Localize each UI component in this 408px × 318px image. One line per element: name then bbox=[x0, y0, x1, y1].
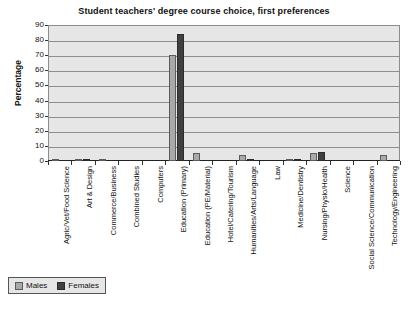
x-tick-label: Humanities/Arts/Language bbox=[250, 166, 258, 254]
chart-title: Student teachers' degree course choice, … bbox=[0, 6, 408, 16]
bar-females bbox=[177, 34, 184, 161]
x-tick-mark bbox=[236, 161, 237, 165]
x-tick-label: Combined Studies bbox=[133, 166, 141, 227]
x-tick-mark bbox=[95, 161, 96, 165]
chart-legend: Males Females bbox=[8, 277, 106, 294]
bar-females bbox=[318, 152, 325, 161]
y-axis-tick-labels: 0102030405060708090 bbox=[22, 25, 44, 161]
bar-chart: Student teachers' degree course choice, … bbox=[0, 0, 408, 318]
y-tick-label: 90 bbox=[22, 21, 44, 29]
x-tick-mark bbox=[330, 161, 331, 165]
bars-layer bbox=[48, 25, 400, 161]
bar-males bbox=[169, 55, 176, 161]
x-tick-label: Commerce/Business bbox=[110, 166, 118, 235]
bar-males bbox=[286, 159, 293, 161]
legend-swatch-males-icon bbox=[15, 282, 23, 290]
x-tick-mark bbox=[142, 161, 143, 165]
y-tick-mark bbox=[45, 116, 48, 117]
x-tick-label: Nursing/Physio/Health bbox=[321, 166, 329, 240]
bar-males bbox=[380, 155, 387, 161]
y-tick-mark bbox=[45, 25, 48, 26]
y-tick-mark bbox=[45, 55, 48, 56]
x-tick-mark bbox=[353, 161, 354, 165]
x-tick-mark bbox=[283, 161, 284, 165]
x-tick-mark bbox=[189, 161, 190, 165]
x-tick-mark bbox=[71, 161, 72, 165]
x-tick-label: Art & Design bbox=[86, 166, 94, 208]
y-tick-label: 10 bbox=[22, 142, 44, 150]
x-tick-label: Agric/Vet/Food Science bbox=[63, 166, 71, 244]
y-tick-mark bbox=[45, 70, 48, 71]
y-tick-mark bbox=[45, 161, 48, 162]
legend-swatch-females-icon bbox=[57, 282, 65, 290]
legend-label-females: Females bbox=[68, 281, 99, 290]
x-tick-mark bbox=[377, 161, 378, 165]
y-tick-mark bbox=[45, 85, 48, 86]
legend-label-males: Males bbox=[26, 281, 47, 290]
x-tick-label: Computers bbox=[157, 166, 165, 203]
x-tick-mark bbox=[259, 161, 260, 165]
x-tick-label: Medicine/Dentistry bbox=[297, 166, 305, 228]
y-tick-label: 80 bbox=[22, 36, 44, 44]
y-tick-mark bbox=[45, 131, 48, 132]
x-tick-mark bbox=[118, 161, 119, 165]
bar-males bbox=[52, 159, 59, 161]
y-tick-label: 50 bbox=[22, 81, 44, 89]
bar-males bbox=[310, 153, 317, 161]
x-tick-mark bbox=[306, 161, 307, 165]
legend-item-males: Males bbox=[15, 281, 47, 290]
x-tick-mark bbox=[400, 161, 401, 165]
x-tick-label: Hotel/Catering/Tourism bbox=[227, 166, 235, 242]
bar-males bbox=[239, 155, 246, 161]
x-tick-mark bbox=[212, 161, 213, 165]
bar-males bbox=[99, 159, 106, 161]
x-tick-label: Science bbox=[344, 166, 352, 193]
bar-males bbox=[75, 159, 82, 161]
legend-item-females: Females bbox=[57, 281, 99, 290]
bar-females bbox=[83, 159, 90, 161]
x-tick-label: Law bbox=[274, 166, 282, 180]
y-tick-label: 40 bbox=[22, 97, 44, 105]
x-tick-mark bbox=[165, 161, 166, 165]
x-tick-mark bbox=[48, 161, 49, 165]
y-tick-label: 20 bbox=[22, 127, 44, 135]
y-tick-label: 0 bbox=[22, 157, 44, 165]
y-tick-label: 60 bbox=[22, 66, 44, 74]
bar-females bbox=[294, 159, 301, 161]
y-tick-mark bbox=[45, 101, 48, 102]
x-tick-label: Social Science/Communication bbox=[368, 166, 376, 269]
bar-females bbox=[247, 159, 254, 161]
y-tick-mark bbox=[45, 40, 48, 41]
y-tick-label: 30 bbox=[22, 112, 44, 120]
bar-males bbox=[193, 153, 200, 161]
y-tick-mark bbox=[45, 146, 48, 147]
x-tick-label: Education (PE/Material) bbox=[204, 166, 212, 245]
x-tick-label: Technology/Engineering bbox=[391, 166, 399, 246]
x-tick-label: Education (Primary) bbox=[180, 166, 188, 232]
y-tick-label: 70 bbox=[22, 51, 44, 59]
